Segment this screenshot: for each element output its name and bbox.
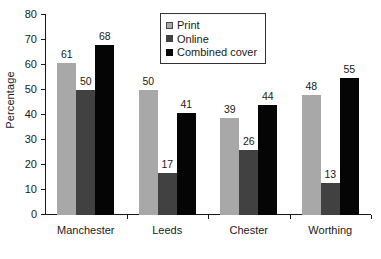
y-axis-title: Percentage [4, 60, 16, 140]
y-tick-mark [41, 39, 45, 40]
x-tick-mark [371, 215, 372, 219]
legend-swatch-print-icon [166, 22, 173, 29]
y-tick-label: 80 [7, 9, 37, 20]
bar-print-leeds [139, 90, 158, 215]
y-tick-label: 20 [7, 159, 37, 170]
bar-combined-cover-manchester [95, 45, 114, 215]
x-category-label-chester: Chester [208, 224, 290, 237]
bar-value-label: 44 [254, 91, 281, 102]
bar-value-label: 39 [216, 104, 243, 115]
bar-print-worthing [302, 95, 321, 215]
y-tick-mark [41, 164, 45, 165]
bar-online-chester [239, 150, 258, 215]
bar-combined-cover-chester [258, 105, 277, 215]
bar-online-worthing [321, 183, 340, 216]
chart-legend: PrintOnlineCombined cover [160, 13, 266, 64]
bar-chart: Percentage 01020304050607080 61506850174… [0, 0, 381, 259]
y-tick-label: 50 [7, 84, 37, 95]
y-tick-label: 30 [7, 134, 37, 145]
legend-label: Combined cover [177, 46, 257, 58]
x-category-label-leeds: Leeds [127, 224, 209, 237]
legend-label: Print [177, 19, 200, 31]
y-tick-mark [41, 114, 45, 115]
legend-swatch-online-icon [166, 35, 173, 42]
x-tick-mark [290, 215, 291, 219]
y-tick-label: 0 [7, 209, 37, 220]
legend-label: Online [177, 33, 209, 45]
legend-swatch-combined-icon [166, 49, 173, 56]
bar-combined-cover-worthing [340, 78, 359, 216]
bar-value-label: 61 [53, 49, 80, 60]
bar-value-label: 50 [135, 76, 162, 87]
y-tick-label: 60 [7, 59, 37, 70]
y-tick-label: 40 [7, 109, 37, 120]
legend-item-combined[interactable]: Combined cover [166, 46, 257, 59]
y-axis-line [45, 14, 46, 215]
legend-item-online[interactable]: Online [166, 32, 257, 45]
x-category-label-worthing: Worthing [290, 224, 372, 237]
bar-value-label: 55 [336, 64, 363, 75]
y-tick-mark [41, 64, 45, 65]
bar-print-chester [220, 118, 239, 216]
bar-online-manchester [76, 90, 95, 215]
bar-online-leeds [158, 173, 177, 216]
y-tick-mark [41, 89, 45, 90]
y-tick-mark [41, 214, 45, 215]
legend-item-print[interactable]: Print [166, 19, 257, 32]
y-tick-mark [41, 189, 45, 190]
bar-combined-cover-leeds [177, 113, 196, 216]
bar-value-label: 68 [91, 31, 118, 42]
x-category-label-manchester: Manchester [45, 224, 127, 237]
y-tick-mark [41, 14, 45, 15]
x-tick-mark [127, 215, 128, 219]
y-tick-label: 70 [7, 34, 37, 45]
y-tick-mark [41, 139, 45, 140]
x-tick-mark [208, 215, 209, 219]
bar-value-label: 41 [173, 99, 200, 110]
bar-value-label: 48 [298, 81, 325, 92]
y-tick-label: 10 [7, 184, 37, 195]
